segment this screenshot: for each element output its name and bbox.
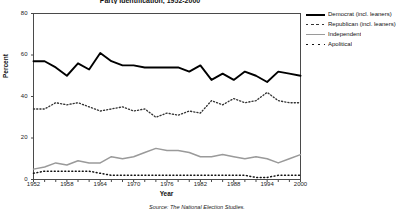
x-axis-title: Year: [33, 190, 300, 197]
x-tick-label: 1970: [122, 181, 146, 187]
series-line-2: [34, 148, 301, 169]
y-tick-label: 60: [12, 51, 28, 57]
x-tick-label: 1988: [222, 181, 246, 187]
legend-label: Apolitical: [328, 40, 352, 49]
source-caption: Source: The National Election Studies.: [0, 204, 394, 210]
legend-swatch-icon: [306, 10, 325, 19]
chart-legend: Democrat (incl. leaners)Republican (incl…: [306, 9, 396, 49]
legend-swatch-icon: [306, 30, 325, 39]
series-line-3: [34, 171, 301, 177]
legend-swatch-icon: [306, 40, 325, 49]
y-axis-title: Percent: [2, 54, 9, 78]
y-tick-label: 20: [12, 134, 28, 140]
legend-swatch-icon: [306, 20, 325, 29]
series-line-0: [34, 53, 301, 82]
legend-item: Republican (incl. leaners): [306, 19, 396, 29]
y-tick-label: 40: [12, 93, 28, 99]
x-tick-label: 1952: [22, 181, 46, 187]
legend-label: Republican (incl. leaners): [328, 20, 396, 29]
legend-item: Democrat (incl. leaners): [306, 9, 396, 19]
legend-item: Apolitical: [306, 39, 396, 49]
x-tick-label: 1982: [188, 181, 212, 187]
legend-label: Independent: [328, 30, 361, 39]
x-tick-label: 1994: [255, 181, 279, 187]
legend-label: Democrat (incl. leaners): [328, 10, 392, 19]
series-line-1: [34, 92, 301, 117]
x-tick-label: 1976: [155, 181, 179, 187]
legend-item: Independent: [306, 29, 396, 39]
x-tick-label: 1958: [55, 181, 79, 187]
y-tick-label: 80: [12, 10, 28, 16]
x-tick-label: 1964: [88, 181, 112, 187]
x-tick-label: 2000: [289, 181, 313, 187]
